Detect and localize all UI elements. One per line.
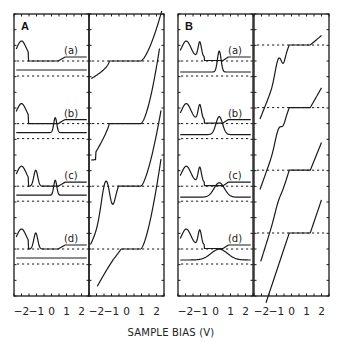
curve-label: (c) xyxy=(228,170,241,181)
x-tick-label: 2 xyxy=(153,305,160,317)
x-tick-label: 0 xyxy=(288,305,295,317)
curve-label: (a) xyxy=(64,45,78,56)
curve-label: (c) xyxy=(64,170,77,181)
x-tick-label: −2 xyxy=(178,305,193,317)
x-tick-label: −2 xyxy=(254,305,269,317)
x-tick-label: −1 xyxy=(29,305,44,317)
x-tick-label: −1 xyxy=(193,305,208,317)
curve-label: (b) xyxy=(64,108,78,119)
curve-label: (a) xyxy=(228,45,242,56)
curve-label: (b) xyxy=(228,108,242,119)
x-tick-label: −1 xyxy=(269,305,284,317)
x-tick-label: −2 xyxy=(89,305,104,317)
curve-label: (d) xyxy=(64,233,78,244)
panel-label-b: B xyxy=(185,20,193,32)
x-tick-label: 0 xyxy=(48,305,55,317)
panel-b-iv: −2−1012 xyxy=(254,14,329,317)
panel-b-spectra: −2−1012B(a)(b)(c)(d) xyxy=(178,14,253,317)
x-tick-label: 0 xyxy=(212,305,219,317)
x-tick-label: 1 xyxy=(227,305,234,317)
x-tick-label: 1 xyxy=(303,305,310,317)
x-tick-label: 1 xyxy=(63,305,70,317)
x-tick-label: −1 xyxy=(104,305,119,317)
x-tick-label: 0 xyxy=(123,305,130,317)
panel-a-iv: −2−1012 xyxy=(89,11,164,317)
x-tick-label: 2 xyxy=(78,305,85,317)
x-axis-label: SAMPLE BIAS (V) xyxy=(128,327,215,338)
curve-label: (d) xyxy=(228,233,242,244)
x-tick-label: 1 xyxy=(138,305,145,317)
x-tick-label: 2 xyxy=(242,305,249,317)
panel-label-a: A xyxy=(21,20,29,32)
figure: −2−1012A(a)(b)(c)(d)−2−1012−2−1012B(a)(b… xyxy=(0,0,337,343)
panel-a-spectra: −2−1012A(a)(b)(c)(d) xyxy=(14,14,89,317)
x-tick-label: −2 xyxy=(14,305,29,317)
x-tick-label: 2 xyxy=(318,305,325,317)
